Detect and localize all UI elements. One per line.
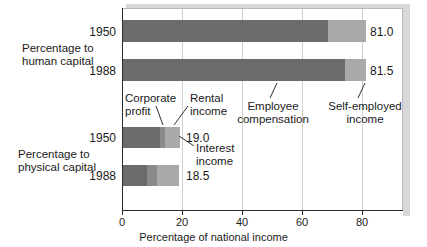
bar-physical-1988: [123, 165, 179, 186]
bar-total-label-physical-1988: 18.5: [186, 169, 209, 183]
bar-physical-1950: [123, 127, 180, 148]
group-label-physical-capital: Percentage to physical capital: [18, 148, 96, 174]
annotation-rental-income: Rental income: [190, 92, 227, 118]
annotation-self-employed-income-line2: income: [322, 113, 408, 126]
bar-human-1988: [123, 59, 366, 81]
annotation-self-employed-income-line1: Self-employed: [322, 100, 408, 113]
x-tick-label-60: 60: [287, 216, 317, 228]
bar-category-label-physical-1950: 1950: [80, 131, 116, 145]
x-tick-label-20: 20: [167, 216, 197, 228]
bar-category-label-human-1950: 1950: [80, 25, 116, 39]
bar-human-1950: [123, 20, 366, 42]
annotation-self-employed-income: Self-employed income: [322, 100, 408, 126]
x-tick-label-80: 80: [347, 216, 377, 228]
group-label-human-capital-line1: Percentage to: [22, 42, 94, 55]
segment-self-employed-income: [328, 20, 366, 42]
segment-interest-income: [147, 165, 157, 186]
group-label-physical-capital-line1: Percentage to: [18, 148, 96, 161]
annotation-employee-compensation-line2: compensation: [230, 113, 316, 126]
figure-canvas: 0 20 40 60 80 Percentage of national inc…: [0, 0, 427, 247]
x-tick-20: [182, 211, 183, 215]
group-label-human-capital-line2: human capital: [22, 55, 94, 68]
x-tick-80: [362, 211, 363, 215]
x-tick-label-0: 0: [107, 216, 137, 228]
x-axis-label: Percentage of national income: [0, 231, 427, 243]
segment-employee-compensation: [123, 20, 328, 42]
x-tick-60: [302, 211, 303, 215]
segment-rental-income: [157, 165, 179, 186]
segment-self-employed-income: [345, 59, 366, 81]
bar-total-label-human-1988: 81.5: [370, 64, 393, 78]
group-label-human-capital: Percentage to human capital: [22, 42, 94, 68]
x-tick-label-40: 40: [227, 216, 257, 228]
annotation-corporate-profit: Corporate profit: [125, 92, 176, 118]
segment-corporate-profit: [123, 127, 160, 148]
segment-employee-compensation: [123, 59, 345, 81]
group-label-physical-capital-line2: physical capital: [18, 161, 96, 174]
annotation-interest-income: Interest income: [196, 142, 234, 168]
segment-corporate-profit: [123, 165, 147, 186]
x-tick-40: [242, 211, 243, 215]
annotation-interest-income-line2: income: [196, 155, 234, 168]
annotation-corporate-profit-line2: profit: [125, 105, 176, 118]
annotation-rental-income-line2: income: [190, 105, 227, 118]
x-axis-line: [122, 210, 403, 211]
annotation-interest-income-line1: Interest: [196, 142, 234, 155]
annotation-rental-income-line1: Rental: [190, 92, 227, 105]
segment-rental-income: [165, 127, 180, 148]
bar-total-label-human-1950: 81.0: [370, 25, 393, 39]
annotation-employee-compensation-line1: Employee: [230, 100, 316, 113]
annotation-corporate-profit-line1: Corporate: [125, 92, 176, 105]
annotation-employee-compensation: Employee compensation: [230, 100, 316, 126]
x-tick-0: [122, 211, 123, 215]
